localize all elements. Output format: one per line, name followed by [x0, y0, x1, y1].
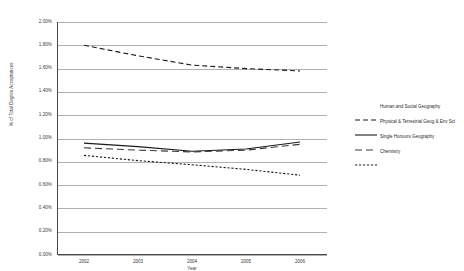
- legend-item[interactable]: Chemistry: [355, 149, 463, 158]
- y-axis-tick-label: 0.20%: [6, 229, 52, 234]
- y-axis-tick-label: 1.60%: [6, 66, 52, 71]
- x-axis-tick-label: 2002: [64, 260, 104, 265]
- x-axis-tick-label: 2005: [226, 260, 266, 265]
- data-series-layer: [57, 22, 327, 255]
- x-axis-title: Year: [57, 267, 327, 271]
- legend-swatch-icon: [355, 122, 377, 124]
- legend-label: Chemistry: [380, 149, 463, 155]
- y-axis-tick-label: 1.40%: [6, 89, 52, 94]
- x-axis-tick-label: 2006: [280, 260, 320, 265]
- y-axis-tick-label: 0.00%: [6, 253, 52, 258]
- legend-swatch-icon: [355, 152, 377, 154]
- y-axis-tick-label: 0.40%: [6, 206, 52, 211]
- gridline: [58, 255, 327, 256]
- legend-label: Human and Social Geography: [380, 104, 463, 110]
- legend-swatch-icon: [355, 137, 377, 139]
- y-axis-tick-label: 2.00%: [6, 20, 52, 25]
- legend-swatch-icon: [355, 107, 377, 109]
- x-axis-tick-label: 2004: [172, 260, 212, 265]
- y-axis-tick-label: 1.20%: [6, 113, 52, 118]
- legend-item[interactable]: Single Honours Geography: [355, 134, 463, 143]
- legend-label: Single Honours Geography: [380, 134, 463, 140]
- y-axis-tick-label: 1.00%: [6, 136, 52, 141]
- legend-item[interactable]: Physical & Terrestrial Geog & Env Sci: [355, 119, 463, 128]
- y-axis-title: % of Total Degree Acceptances: [10, 4, 15, 184]
- series-line: [84, 155, 300, 175]
- y-axis-tick-label: 1.80%: [6, 43, 52, 48]
- legend-item[interactable]: Human and Social Geography: [355, 104, 463, 113]
- chart-legend: Human and Social GeographyPhysical & Ter…: [355, 104, 463, 164]
- legend-label: Physical & Terrestrial Geog & Env Sci: [380, 119, 463, 125]
- x-axis-tick-label: 2003: [118, 260, 158, 265]
- series-line: [84, 142, 300, 151]
- line-chart: % of Total Degree Acceptances 2.00%1.80%…: [0, 0, 464, 271]
- y-axis-tick-label: 0.60%: [6, 183, 52, 188]
- y-axis-tick-label: 0.80%: [6, 159, 52, 164]
- series-line: [84, 45, 300, 71]
